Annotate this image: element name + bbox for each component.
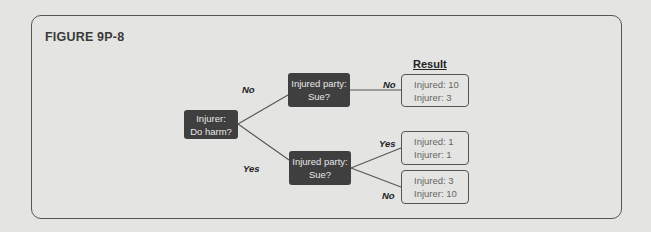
node-line: Sue? bbox=[309, 168, 331, 181]
result-injurer: Injurer: 10 bbox=[414, 188, 468, 201]
result-injured: Injured: 3 bbox=[414, 175, 468, 188]
result-box: Injured: 1 Injurer: 1 bbox=[401, 131, 469, 165]
node-line: Injurer: bbox=[196, 112, 226, 125]
edge-label-no: No bbox=[382, 190, 395, 201]
edge-bottom-result3 bbox=[351, 168, 401, 187]
edge-label-no: No bbox=[383, 79, 396, 90]
result-header: Result bbox=[413, 58, 447, 70]
node-injured-party-sue-bottom: Injured party: Sue? bbox=[289, 151, 351, 185]
result-box: Injured: 3 Injurer: 10 bbox=[401, 170, 469, 204]
edge-bottom-result2 bbox=[351, 148, 401, 168]
node-injurer-do-harm: Injurer: Do harm? bbox=[184, 110, 238, 139]
edge-root-top bbox=[238, 95, 288, 124]
result-injured: Injured: 1 bbox=[414, 136, 468, 149]
node-line: Injured party: bbox=[291, 77, 346, 90]
node-line: Injured party: bbox=[292, 155, 347, 168]
result-injurer: Injurer: 1 bbox=[414, 149, 468, 162]
node-line: Sue? bbox=[308, 90, 330, 103]
edge-label-no: No bbox=[242, 84, 255, 95]
tree-edges bbox=[0, 0, 651, 232]
result-injured: Injured: 10 bbox=[414, 79, 468, 92]
result-injurer: Injurer: 3 bbox=[414, 92, 468, 105]
node-injured-party-sue-top: Injured party: Sue? bbox=[288, 73, 350, 107]
result-box: Injured: 10 Injurer: 3 bbox=[401, 74, 469, 107]
edge-label-yes: Yes bbox=[243, 163, 260, 174]
node-line: Do harm? bbox=[190, 125, 232, 138]
edge-root-bottom bbox=[238, 124, 289, 160]
edge-label-yes: Yes bbox=[379, 138, 396, 149]
